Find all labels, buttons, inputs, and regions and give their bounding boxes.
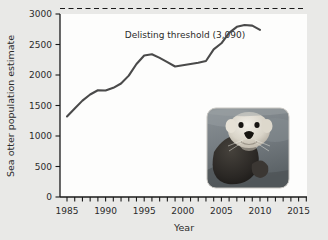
sea-otter-photo — [201, 108, 297, 188]
y-tick-label-1000: 1000 — [29, 131, 52, 141]
x-tick-label-2015: 2015 — [287, 206, 310, 216]
x-tick-label-1985: 1985 — [56, 206, 79, 216]
y-tick-label-3000: 3000 — [29, 9, 52, 19]
y-tick-label-2000: 2000 — [29, 70, 52, 80]
chart-svg: Delisting threshold (3,090) 0 500 1000 1… — [0, 0, 328, 240]
x-tick-label-2000: 2000 — [171, 206, 194, 216]
y-tick-label-1500: 1500 — [29, 101, 52, 111]
y-tick-label-0: 0 — [46, 192, 52, 202]
sea-otter-population-chart: Delisting threshold (3,090) 0 500 1000 1… — [0, 0, 328, 240]
x-axis-title: Year — [173, 222, 194, 233]
y-tick-label-2500: 2500 — [29, 40, 52, 50]
x-tick-label-2010: 2010 — [249, 206, 272, 216]
y-axis-title: Sea otter population estimate — [5, 35, 16, 177]
x-tick-label-2005: 2005 — [210, 206, 233, 216]
x-tick-label-1990: 1990 — [94, 206, 117, 216]
x-tick-label-1995: 1995 — [133, 206, 156, 216]
y-tick-label-500: 500 — [35, 162, 52, 172]
